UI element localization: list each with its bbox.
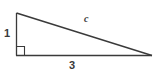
triangle-figure: 1 c 3 <box>0 0 160 79</box>
triangle-graphic <box>0 0 160 79</box>
horizontal-leg-label: 3 <box>69 60 75 71</box>
hypotenuse-label: c <box>84 14 88 24</box>
right-angle-marker-icon <box>17 47 25 56</box>
vertical-leg-label: 1 <box>4 28 10 39</box>
